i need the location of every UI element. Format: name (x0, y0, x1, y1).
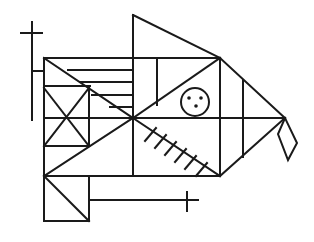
bottom-plus-icon (133, 192, 198, 211)
geometric-fish-diagram (0, 0, 314, 242)
mouth-diamond-icon (278, 118, 297, 160)
top-plus-icon (21, 22, 44, 120)
eye-icon (181, 88, 209, 116)
gill-slashes (145, 128, 207, 176)
bottom-box (44, 176, 133, 221)
